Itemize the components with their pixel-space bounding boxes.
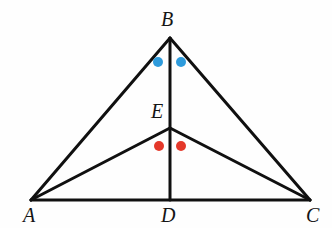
segment-EC — [170, 128, 310, 200]
geometry-canvas — [0, 0, 332, 228]
angle-AED-mark — [154, 141, 164, 151]
vertex-label-E: E — [151, 101, 163, 121]
vertex-label-A: A — [23, 205, 35, 225]
vertex-label-D: D — [161, 205, 175, 225]
vertex-label-B: B — [161, 9, 173, 29]
geometry-figure: B E A D C — [0, 0, 332, 228]
angle-ABD-mark — [153, 57, 163, 67]
segment-BC — [170, 38, 310, 200]
vertex-label-C: C — [306, 205, 319, 225]
segment-AE — [31, 128, 170, 200]
angle-DBC-mark — [176, 57, 186, 67]
angle-DEC-mark — [176, 141, 186, 151]
segment-AB — [31, 38, 170, 200]
cevian-and-inner-triangle — [31, 38, 310, 200]
